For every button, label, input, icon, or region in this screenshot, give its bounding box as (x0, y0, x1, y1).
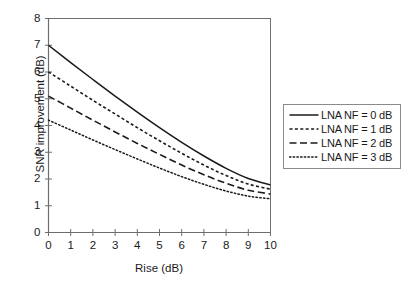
y-tick-label: 5 (21, 93, 41, 105)
x-axis-title: Rise (dB) (48, 262, 270, 274)
legend-line-sample-3 (289, 152, 319, 162)
legend-line-sample-2 (289, 138, 319, 148)
x-tick-label: 0 (39, 240, 59, 252)
legend-line-sample-0 (289, 110, 319, 120)
x-tick-label: 1 (61, 240, 81, 252)
x-tick-label: 8 (216, 240, 236, 252)
legend-item: LNA NF = 2 dB (284, 136, 400, 150)
x-tick-label: 2 (83, 240, 103, 252)
legend-item: LNA NF = 1 dB (284, 122, 400, 136)
y-tick-label: 8 (21, 13, 41, 25)
x-tick-label: 10 (261, 240, 281, 252)
legend-line-sample-1 (289, 124, 319, 134)
chart-legend: LNA NF = 0 dBLNA NF = 1 dBLNA NF = 2 dBL… (283, 104, 401, 169)
y-tick-label: 4 (21, 120, 41, 132)
x-tick-label: 9 (238, 240, 258, 252)
legend-item: LNA NF = 3 dB (284, 150, 400, 164)
y-tick-label: 2 (21, 173, 41, 185)
x-tick-label: 7 (194, 240, 214, 252)
chart-figure: SNR improvement (dB) Rise (dB) 012345678… (0, 0, 408, 289)
x-tick-label: 6 (172, 240, 192, 252)
legend-label: LNA NF = 2 dB (319, 137, 392, 149)
y-tick-label: 7 (21, 39, 41, 51)
x-tick-label: 4 (127, 240, 147, 252)
y-tick-label: 6 (21, 66, 41, 78)
y-tick-label: 3 (21, 146, 41, 158)
legend-label: LNA NF = 1 dB (319, 123, 392, 135)
y-tick-label: 1 (21, 200, 41, 212)
plot-frame (49, 19, 271, 233)
legend-item: LNA NF = 0 dB (284, 108, 400, 122)
legend-label: LNA NF = 0 dB (319, 109, 392, 121)
x-tick-label: 5 (150, 240, 170, 252)
x-tick-label: 3 (105, 240, 125, 252)
y-tick-label: 0 (21, 227, 41, 239)
legend-label: LNA NF = 3 dB (319, 151, 392, 163)
